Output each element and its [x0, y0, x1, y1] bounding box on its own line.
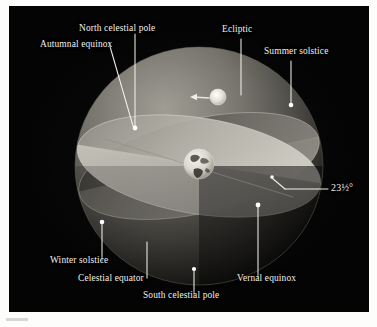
summer-solstice-point [289, 103, 294, 108]
label-summer-solstice: Summer solstice [264, 47, 328, 56]
diagram-scene: North celestial pole Autumnal equinox Ec… [9, 6, 369, 312]
sphere-shadow-left [75, 166, 199, 285]
figure-page: North celestial pole Autumnal equinox Ec… [0, 0, 377, 327]
winter-solstice-point [100, 220, 105, 225]
label-obliquity-angle: 23½° [331, 183, 353, 193]
celestial-sphere-figure: North celestial pole Autumnal equinox Ec… [9, 6, 369, 312]
obliquity-vertex-point [270, 175, 274, 179]
label-ecliptic: Ecliptic [222, 25, 252, 34]
print-smudge [6, 318, 28, 321]
label-vernal-equinox: Vernal equinox [237, 274, 296, 283]
south-celestial-pole-point [192, 267, 196, 271]
label-autumnal-equinox: Autumnal equinox [40, 40, 112, 49]
label-celestial-equator: Celestial equator [78, 274, 144, 283]
label-winter-solstice: Winter solstice [50, 256, 108, 265]
vernal-equinox-point [256, 203, 261, 208]
north-celestial-pole-point [133, 126, 138, 131]
sphere-shadow [199, 166, 323, 285]
earth-globe [184, 149, 214, 179]
label-south-celestial-pole: South celestial pole [143, 291, 219, 300]
label-north-celestial-pole: North celestial pole [79, 24, 155, 33]
sun-sphere [210, 89, 226, 105]
